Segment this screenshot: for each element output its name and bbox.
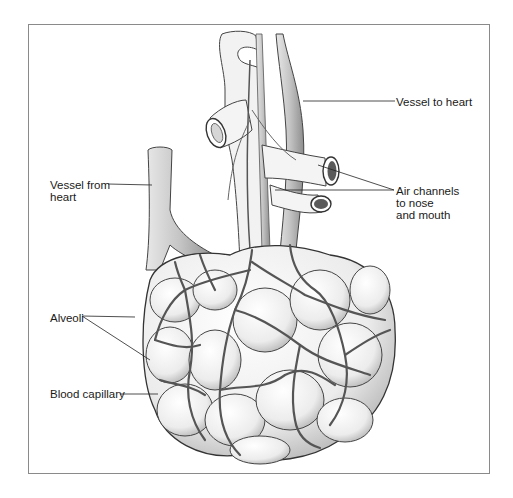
label-text: Air channels <box>396 185 459 197</box>
label-text: Vessel from <box>50 179 110 191</box>
vessel-to-heart-shape <box>276 34 304 252</box>
alveoli-cluster-shape <box>143 245 395 464</box>
label-text: Alveoli <box>50 312 84 324</box>
label-alveoli: Alveoli <box>50 312 84 324</box>
label-text: Vessel to heart <box>396 96 472 108</box>
label-vessel-from-heart: Vessel from heart <box>50 179 110 203</box>
label-text: heart <box>50 191 110 203</box>
label-text: and mouth <box>396 209 459 221</box>
alveoli-illustration <box>0 0 513 498</box>
vessel-from-heart-shape <box>146 147 215 270</box>
label-vessel-to-heart: Vessel to heart <box>396 96 472 108</box>
air-channel-shape <box>202 31 339 262</box>
label-text: Blood capillary <box>50 388 125 400</box>
label-air-channels: Air channels to nose and mouth <box>396 185 459 221</box>
label-text: to nose <box>396 197 459 209</box>
label-blood-capillary: Blood capillary <box>50 388 125 400</box>
